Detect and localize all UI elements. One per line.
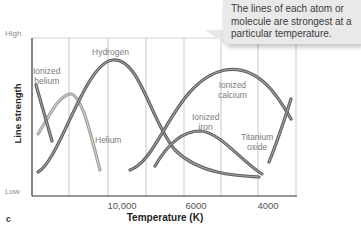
label-ionized-helium-line1: Ionized: [33, 66, 60, 76]
label-titanium-oxide-line1: Titanium: [241, 132, 273, 142]
label-ionized-calcium: Ionized calcium: [218, 80, 247, 100]
x-axis-title: Temperature (K): [127, 212, 204, 223]
label-ionized-iron-line1: Ionized: [192, 112, 219, 122]
panel-label: c: [6, 214, 11, 224]
label-ionized-calcium-line2: calcium: [218, 90, 247, 100]
label-ionized-helium: Ionized helium: [33, 66, 60, 86]
label-ionized-iron-line2: iron: [192, 122, 219, 132]
label-ionized-calcium-line1: Ionized: [218, 80, 247, 90]
x-tick-6000: 6000: [185, 200, 206, 211]
label-titanium-oxide-line2: oxide: [241, 142, 273, 152]
curve-titanium-oxide: [269, 99, 291, 162]
y-high-label: High: [5, 29, 21, 38]
x-tick-4000: 4000: [257, 200, 278, 211]
annotation-callout: The lines of each atom or molecule are s…: [223, 0, 361, 44]
curve-hydrogen: [38, 60, 259, 177]
label-ionized-helium-line2: helium: [33, 76, 60, 86]
label-titanium-oxide: Titanium oxide: [241, 132, 273, 152]
callout-text: The lines of each atom or molecule are s…: [231, 3, 361, 41]
y-low-label: Low: [5, 187, 20, 196]
label-hydrogen: Hydrogen: [92, 47, 129, 57]
label-helium: Helium: [95, 135, 121, 145]
callout-pointer: [205, 30, 225, 44]
x-tick-10000: 10,000: [107, 200, 136, 211]
y-axis-title: Line strength: [12, 79, 23, 149]
label-ionized-iron: Ionized iron: [192, 112, 219, 132]
